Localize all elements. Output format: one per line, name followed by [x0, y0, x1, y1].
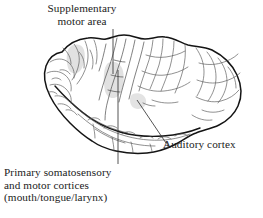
label-primary-line2: and motor cortices — [4, 179, 111, 192]
label-primary-line1: Primary somatosensory — [4, 166, 111, 179]
occipital-lobe-gyri — [192, 48, 240, 120]
parietal-lobe-gyri — [138, 39, 190, 106]
label-auditory-line1: Auditory cortex — [163, 138, 236, 151]
label-primary-line3: (mouth/tongue/larynx) — [4, 191, 111, 204]
sma-shaded-region — [67, 45, 85, 74]
label-sma-line1: Supplementary — [34, 2, 130, 15]
label-sma-line2: motor area — [34, 15, 130, 28]
label-supplementary-motor-area: Supplementary motor area — [34, 2, 130, 27]
label-primary-somatosensory-and-motor-cortices: Primary somatosensory and motor cortices… — [4, 166, 111, 204]
brain-diagram-figure: Supplementary motor area Auditory cortex… — [0, 0, 263, 218]
label-auditory-cortex: Auditory cortex — [163, 138, 236, 151]
